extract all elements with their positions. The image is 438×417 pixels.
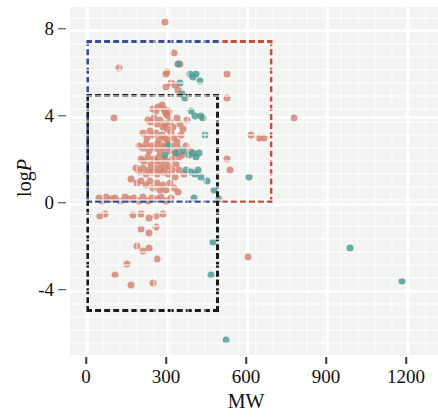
y-tick-label: 4 bbox=[45, 105, 55, 127]
x-tick bbox=[325, 357, 327, 364]
y-tick bbox=[58, 202, 66, 204]
y-tick-label: 8 bbox=[45, 18, 55, 40]
x-tick-label: 1200 bbox=[387, 366, 425, 388]
y-tick-label: 0 bbox=[45, 192, 55, 214]
y-axis-title-italic: P bbox=[13, 159, 35, 171]
x-tick-label: 600 bbox=[232, 366, 261, 388]
x-tick-label: 0 bbox=[81, 366, 91, 388]
gridline-vertical bbox=[326, 7, 329, 355]
gridline-horizontal bbox=[70, 29, 438, 32]
y-tick bbox=[58, 289, 66, 291]
y-axis-title-prefix: log bbox=[13, 171, 35, 197]
data-point-salmon bbox=[162, 19, 169, 26]
black-dashed-region bbox=[86, 94, 219, 312]
y-tick bbox=[58, 28, 66, 30]
x-tick bbox=[165, 357, 167, 364]
x-tick bbox=[85, 357, 87, 364]
data-point-teal bbox=[223, 336, 230, 343]
data-point-salmon bbox=[245, 254, 252, 261]
data-point-teal bbox=[347, 245, 354, 252]
y-axis-title: logP bbox=[13, 159, 36, 197]
data-point-salmon bbox=[291, 114, 298, 121]
plot-panel bbox=[70, 7, 438, 355]
x-tick-label: 900 bbox=[312, 366, 341, 388]
gridline-vertical bbox=[406, 7, 409, 355]
x-tick bbox=[405, 357, 407, 364]
scatter-plot-figure: 03006009001200840-4 MW logP bbox=[0, 0, 438, 417]
x-tick bbox=[245, 357, 247, 364]
y-tick-label: -4 bbox=[38, 279, 54, 301]
data-point-teal bbox=[399, 278, 406, 285]
x-axis-title: MW bbox=[228, 390, 265, 413]
x-tick-label: 300 bbox=[152, 366, 181, 388]
y-tick bbox=[58, 115, 66, 117]
